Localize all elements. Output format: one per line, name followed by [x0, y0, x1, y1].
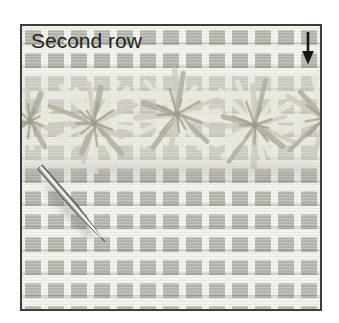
caption-label: Second row: [31, 29, 142, 53]
photo-overlay: [22, 26, 320, 309]
band-lower-shadow: [22, 164, 320, 180]
photo-frame: Second row: [20, 24, 322, 311]
page: { "figure": { "label": "Second row", "an…: [0, 0, 339, 323]
needle-shadow: [41, 181, 98, 243]
down-arrow-icon: [302, 32, 314, 65]
